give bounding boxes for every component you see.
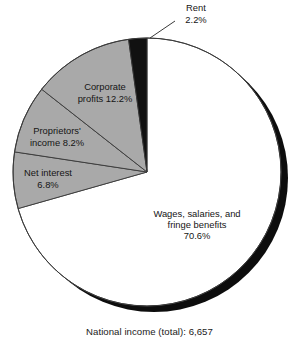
chart-caption: National income (total): 6,657 bbox=[0, 326, 299, 337]
pie-label-line: Proprietors' bbox=[33, 126, 81, 137]
pie-label-corporate-profits: Corporateprofits 12.2% bbox=[78, 82, 133, 104]
pie-label-line: fringe benefits bbox=[168, 219, 227, 230]
pie-label-line: 70.6% bbox=[184, 231, 211, 242]
pie-chart-svg: Wages, salaries, andfringe benefits70.6%… bbox=[0, 0, 299, 346]
pie-label-line: Wages, salaries, and bbox=[153, 208, 240, 219]
pie-label-line: 2.2% bbox=[185, 14, 206, 25]
pie-label-line: Net interest bbox=[24, 168, 72, 179]
pie-label-proprietors-income: Proprietors'income 8.2% bbox=[30, 126, 84, 148]
pie-label-line: Rent bbox=[186, 3, 206, 14]
pie-label-line: profits 12.2% bbox=[78, 93, 133, 104]
rent-leader-line bbox=[150, 21, 175, 38]
pie-label-line: income 8.2% bbox=[30, 137, 84, 148]
pie-label-rent: Rent2.2% bbox=[185, 3, 206, 25]
pie-label-line: Corporate bbox=[84, 82, 126, 93]
pie-label-line: 6.8% bbox=[37, 179, 58, 190]
pie-chart-figure: Wages, salaries, andfringe benefits70.6%… bbox=[0, 0, 299, 346]
